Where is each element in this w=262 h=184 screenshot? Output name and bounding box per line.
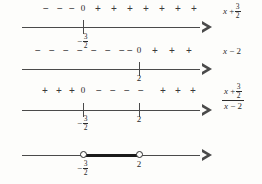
tick-label: 2 [119, 160, 159, 169]
zero-marker: 0 [134, 46, 144, 55]
fraction: 32 [235, 3, 241, 20]
sign-glyph: + [188, 86, 198, 96]
expression-label-2: x − 2 [223, 46, 241, 56]
quotient-fraction: x +32 x − 2 [222, 83, 244, 112]
tick-label: −32 [63, 115, 103, 132]
fraction: 32 [83, 115, 89, 132]
expr-operator: + [229, 6, 234, 16]
fraction-numerator: 3 [83, 33, 89, 41]
sign-glyph: + [109, 4, 119, 14]
sign-glyph: − [108, 86, 118, 96]
expr-operator: − [230, 101, 235, 111]
sign-glyph: − [41, 4, 51, 14]
expr-variable: x [224, 101, 228, 111]
sign-glyph: − [103, 46, 113, 56]
sign-glyph: + [157, 4, 167, 14]
sign-glyph: − [89, 46, 99, 56]
sign-glyph: + [125, 4, 135, 14]
axis-line [22, 110, 208, 111]
sign-glyph: + [150, 46, 160, 56]
expression-label-1: x +32 [223, 3, 241, 20]
tick-label: −32 [63, 160, 103, 177]
expr-constant: 2 [237, 46, 242, 56]
sign-glyph: − [33, 46, 43, 56]
fraction-numerator: 3 [83, 115, 89, 123]
expr-variable: x [224, 86, 228, 96]
sign-glyph: − [61, 46, 71, 56]
fraction-denominator: 2 [83, 123, 89, 132]
sign-glyph: − [136, 86, 146, 96]
tick-label-sign: − [77, 118, 82, 128]
expr-variable: x [223, 46, 227, 56]
zero-marker: 0 [78, 86, 88, 95]
tick-label: 2 [119, 74, 159, 83]
tick-label: 2 [119, 115, 159, 124]
quotient-numerator: x +32 [222, 83, 244, 100]
expr-constant: 2 [238, 101, 243, 111]
sign-glyph: − [122, 86, 132, 96]
fraction-numerator: 3 [236, 83, 242, 91]
expression-label-3: x +32 x − 2 [222, 83, 244, 112]
fraction-denominator: 2 [236, 91, 242, 100]
sign-glyph: + [167, 46, 177, 56]
open-endpoint-marker [136, 151, 143, 158]
fraction-denominator: 2 [83, 168, 89, 177]
sign-glyph: − [94, 86, 104, 96]
sign-glyph: + [54, 86, 64, 96]
axis-line [22, 69, 208, 70]
fraction: 32 [236, 83, 242, 100]
sign-chart-figure: − − − + + + + + + + 0 −32 x +32 − − − − [0, 0, 262, 184]
solution-interval-segment [85, 154, 139, 157]
sign-glyph: + [173, 86, 183, 96]
fraction-numerator: 3 [235, 3, 241, 11]
sign-glyph: + [184, 46, 194, 56]
fraction: 32 [83, 160, 89, 177]
expr-operator: − [229, 46, 234, 56]
sign-glyph: + [158, 86, 168, 96]
fraction-denominator: 2 [235, 11, 241, 20]
quotient-denominator: x − 2 [222, 100, 244, 112]
axis-line [22, 27, 208, 28]
sign-glyph: − [47, 46, 57, 56]
fraction-numerator: 3 [83, 160, 89, 168]
sign-glyph: + [189, 4, 199, 14]
open-endpoint-marker [80, 151, 87, 158]
sign-glyph: + [93, 4, 103, 14]
tick-label-sign: − [77, 163, 82, 173]
expr-operator: + [230, 86, 235, 96]
sign-glyph: + [141, 4, 151, 14]
sign-glyph: + [67, 86, 77, 96]
sign-glyph: − [67, 4, 77, 14]
sign-glyph: + [40, 86, 50, 96]
sign-glyph: + [173, 4, 183, 14]
expr-variable: x [223, 6, 227, 16]
zero-marker: 0 [78, 4, 88, 13]
sign-glyph: − [55, 4, 65, 14]
sign-glyph: − [75, 46, 85, 56]
